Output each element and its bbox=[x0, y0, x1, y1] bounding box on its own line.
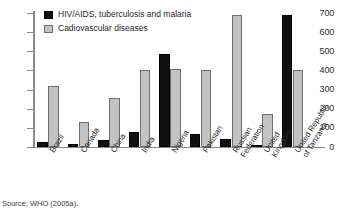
bar bbox=[98, 140, 109, 147]
bar bbox=[220, 139, 231, 147]
legend-item: Cadiovascular diseases bbox=[44, 23, 191, 34]
legend-item-label: Cadiovascular diseases bbox=[58, 24, 148, 33]
black-square-swatch-icon bbox=[44, 11, 53, 19]
bar bbox=[37, 142, 48, 147]
gray-square-swatch-icon bbox=[44, 25, 53, 33]
bar bbox=[232, 15, 243, 147]
legend-item: HIV/AIDS, tuberculosis and malaria bbox=[44, 9, 191, 20]
bar bbox=[190, 134, 201, 147]
legend-item-label: HIV/AIDS, tuberculosis and malaria bbox=[58, 10, 191, 19]
bar bbox=[159, 54, 170, 147]
bar bbox=[68, 144, 79, 147]
source-note: Source: WHO (2005a). bbox=[2, 199, 78, 208]
bar bbox=[129, 132, 140, 147]
chart-legend: HIV/AIDS, tuberculosis and malariaCadiov… bbox=[44, 9, 191, 37]
